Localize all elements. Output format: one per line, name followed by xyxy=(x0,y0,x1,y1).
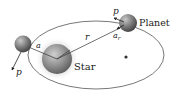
label-accel-top: ar xyxy=(113,31,121,41)
label-planet: Planet xyxy=(139,17,170,28)
label-accel-top-sub: r xyxy=(118,35,121,41)
focus-dot xyxy=(124,55,127,58)
label-radius: r xyxy=(85,32,90,42)
label-accel-left: a xyxy=(36,41,41,50)
label-momentum-top: p xyxy=(113,6,119,16)
planet-left xyxy=(15,36,32,53)
label-star: Star xyxy=(74,61,96,72)
planet-right xyxy=(119,14,137,32)
label-momentum-bottom: p xyxy=(16,67,22,77)
orbit-diagram: p Planet r ar a Star p xyxy=(0,0,182,98)
